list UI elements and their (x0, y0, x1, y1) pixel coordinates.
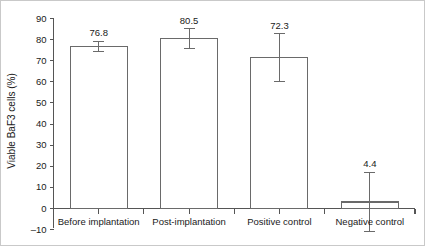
x-axis-category-label: Post-implantation (152, 216, 225, 227)
y-tick-label: 60 (36, 76, 47, 87)
y-tick-label: 30 (36, 139, 47, 150)
x-axis-labels-group: Before implantationPost-implantationPosi… (58, 216, 404, 227)
bar-chart: Viable BaF3 cells (%) 908070605040302010… (1, 1, 425, 246)
y-tick-label: 20 (36, 160, 47, 171)
x-axis-ticks (54, 209, 416, 214)
y-tick-label: –10 (31, 224, 47, 235)
value-labels-group: 76.880.572.34.4 (89, 15, 376, 170)
bar (161, 39, 218, 209)
bar-value-label: 4.4 (363, 158, 376, 169)
bar-value-label: 72.3 (270, 20, 289, 31)
y-axis-label-text: Viable BaF3 cells (%) (6, 73, 17, 168)
y-axis-ticks: 9080706050403020100–10 (31, 13, 54, 235)
chart-figure: Viable BaF3 cells (%) 908070605040302010… (0, 0, 425, 246)
y-tick-label: 40 (36, 118, 47, 129)
bar (70, 46, 127, 208)
bar-value-label: 80.5 (180, 15, 199, 26)
y-tick-label: 50 (36, 97, 47, 108)
x-axis-category-label: Negative control (335, 216, 404, 227)
error-bars-group (93, 29, 375, 232)
x-axis-category-label: Before implantation (58, 216, 140, 227)
x-axis-category-label: Positive control (247, 216, 311, 227)
y-tick-label: 80 (36, 34, 47, 45)
y-tick-label: 0 (41, 203, 46, 214)
bar-value-label: 76.8 (89, 27, 108, 38)
y-tick-label: 70 (36, 55, 47, 66)
bars-group (70, 39, 398, 209)
y-axis-label: Viable BaF3 cells (%) (6, 73, 17, 168)
y-tick-label: 10 (36, 181, 47, 192)
y-tick-label: 90 (36, 13, 47, 24)
